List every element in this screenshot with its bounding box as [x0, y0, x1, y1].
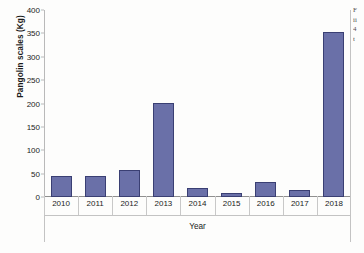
- bar-group-2012: [112, 10, 146, 197]
- bar: [255, 182, 276, 197]
- x-tick-separator: [215, 196, 216, 215]
- x-axis-title: Year: [44, 222, 351, 231]
- x-tick-separator: [146, 196, 147, 215]
- y-tick-label: 100: [0, 146, 44, 155]
- bar-group-2013: [146, 10, 180, 197]
- x-tick-separator: [249, 196, 250, 215]
- y-tick-label: 150: [0, 122, 44, 131]
- bar: [85, 176, 106, 198]
- bar-group-2010: [44, 10, 78, 197]
- y-tick-label: 0: [0, 193, 44, 202]
- bar: [119, 170, 140, 197]
- x-axis-ticks: 201020112012201320142015201620172018: [44, 199, 351, 213]
- x-tick-label: 2015: [215, 199, 249, 213]
- bar: [323, 32, 344, 197]
- x-tick-separator: [180, 196, 181, 215]
- bar-group-2016: [249, 10, 283, 197]
- x-tick-separator: [317, 196, 318, 215]
- bar-group-2017: [283, 10, 317, 197]
- x-tick-separator: [78, 196, 79, 215]
- x-tick-label: 2017: [283, 199, 317, 213]
- y-tick-label: 300: [0, 52, 44, 61]
- margin-caption-line: ii: [353, 16, 364, 26]
- bar-group-2014: [180, 10, 214, 197]
- bar-series: [44, 10, 351, 197]
- y-tick-label: 350: [0, 29, 44, 38]
- bar-group-2018: [317, 10, 351, 197]
- y-tick-label: 400: [0, 6, 44, 15]
- x-tick-separator: [44, 196, 45, 215]
- y-tick-label: 50: [0, 169, 44, 178]
- margin-caption-text: Fii4t: [353, 6, 364, 44]
- x-tick-separator: [112, 196, 113, 215]
- bar: [187, 188, 208, 197]
- y-tick-label: 200: [0, 99, 44, 108]
- x-tick-label: 2010: [44, 199, 78, 213]
- bar: [289, 190, 310, 197]
- x-tick-label: 2013: [146, 199, 180, 213]
- bar-group-2015: [215, 10, 249, 197]
- x-label-row-divider: [44, 215, 351, 216]
- bar: [153, 103, 174, 197]
- bar-group-2011: [78, 10, 112, 197]
- x-tick-label: 2011: [78, 199, 112, 213]
- x-tick-label: 2018: [317, 199, 351, 213]
- x-tick-separator: [283, 196, 284, 215]
- x-tick-label: 2012: [112, 199, 146, 213]
- y-tick-label: 250: [0, 76, 44, 85]
- y-axis-title: Pangolin scales (Kg): [16, 0, 25, 133]
- x-tick-label: 2014: [180, 199, 214, 213]
- bar: [51, 176, 72, 198]
- chart-figure: Pangolin scales (Kg) 4003503002502001501…: [0, 0, 364, 253]
- plot-area: 400350300250200150100500: [44, 10, 351, 197]
- margin-caption-line: F: [353, 6, 364, 16]
- margin-caption-line: t: [353, 35, 364, 45]
- bar: [221, 193, 242, 197]
- x-tick-label: 2016: [249, 199, 283, 213]
- margin-caption-line: 4: [353, 25, 364, 35]
